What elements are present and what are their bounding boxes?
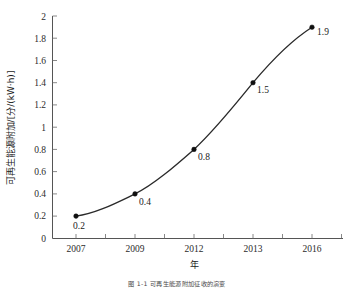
x-tick-label-2013: 2013 [244, 244, 263, 254]
figure-caption: 图 1-1 可再生能源附加征收的演变 [128, 280, 225, 288]
y-tick-label-1-6: 1.6 [34, 56, 46, 66]
y-tick-label-0-4: 0.4 [34, 189, 46, 199]
y-axis-ticks [53, 16, 58, 216]
figure-container: 可再生能源附加/[分/(kW·h)] 2 1.8 1.6 1.4 1.2 1 0… [0, 0, 355, 289]
data-markers [74, 25, 315, 219]
y-tick-label-0-6: 0.6 [34, 167, 46, 177]
x-axis-ticks [76, 234, 342, 239]
x-axis-title: 年 [190, 259, 199, 270]
y-axis-title: 可再生能源附加/[分/(kW·h)] [5, 71, 16, 186]
y-tick-label-2: 2 [41, 12, 46, 22]
y-tick-label-1-4: 1.4 [34, 78, 46, 88]
y-tick-label-1: 1 [41, 123, 46, 133]
y-tick-label-0-8: 0.8 [34, 145, 46, 155]
y-tick-label-1-8: 1.8 [34, 34, 46, 44]
data-point-2009 [133, 192, 138, 197]
x-tick-label-2016: 2016 [303, 244, 322, 254]
data-point-2012 [192, 147, 197, 152]
data-point-2013 [251, 80, 256, 85]
line-chart: 可再生能源附加/[分/(kW·h)] 2 1.8 1.6 1.4 1.2 1 0… [0, 0, 355, 289]
data-label-2016: 1.9 [317, 27, 329, 37]
x-tick-label-2009: 2009 [126, 244, 145, 254]
y-tick-label-0: 0 [41, 234, 46, 244]
data-series-line [76, 27, 312, 216]
data-label-2009: 0.4 [139, 197, 151, 207]
x-tick-label-2007: 2007 [67, 244, 86, 254]
data-label-2012: 0.8 [198, 152, 210, 162]
data-point-2016 [310, 25, 315, 30]
x-tick-label-2012: 2012 [185, 244, 204, 254]
y-tick-label-0-2: 0.2 [34, 211, 46, 221]
data-label-2013: 1.5 [257, 85, 269, 95]
data-point-2007 [74, 214, 79, 219]
data-label-2007: 0.2 [73, 221, 85, 231]
y-tick-label-1-2: 1.2 [34, 100, 46, 110]
